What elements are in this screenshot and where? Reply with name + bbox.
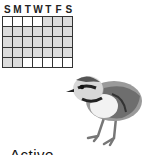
bird-chick-icon	[64, 68, 146, 148]
calendar-cell	[53, 48, 63, 58]
calendar-grid	[2, 16, 73, 68]
day-header: T	[43, 4, 53, 15]
calendar-cell	[43, 58, 53, 68]
calendar-cell	[13, 48, 23, 58]
calendar-cell	[33, 58, 43, 68]
calendar-cell	[13, 27, 23, 37]
calendar-cell	[23, 27, 33, 37]
calendar-day-headers: S M T W T F S	[2, 4, 74, 15]
calendar-cell	[33, 48, 43, 58]
calendar-cell	[23, 37, 33, 47]
day-header: S	[2, 4, 12, 15]
calendar-cell	[33, 17, 43, 27]
calendar-cell	[53, 58, 63, 68]
calendar-cell	[3, 27, 13, 37]
calendar-cell	[43, 17, 53, 27]
calendar-cell	[63, 27, 73, 37]
calendar-cell	[53, 17, 63, 27]
day-header: T	[23, 4, 33, 15]
calendar-cell	[13, 58, 23, 68]
calendar-cell	[23, 48, 33, 58]
day-header: F	[53, 4, 63, 15]
calendar-cell	[33, 37, 43, 47]
calendar-cell	[13, 17, 23, 27]
calendar-cell	[43, 37, 53, 47]
calendar-cell	[63, 48, 73, 58]
calendar-cell	[3, 58, 13, 68]
calendar-cell	[43, 48, 53, 58]
day-header: W	[33, 4, 43, 15]
calendar-cell	[13, 37, 23, 47]
calendar-cell	[63, 17, 73, 27]
calendar-cell	[53, 37, 63, 47]
calendar-cell	[43, 27, 53, 37]
day-header: S	[64, 4, 74, 15]
calendar-cell	[23, 58, 33, 68]
calendar-cell	[23, 17, 33, 27]
calendar-cell	[3, 37, 13, 47]
calendar-cell	[63, 37, 73, 47]
day-header: M	[12, 4, 22, 15]
calendar-cell	[63, 58, 73, 68]
calendar-cell	[3, 17, 13, 27]
caption-text: Active	[10, 146, 54, 155]
calendar-cell	[33, 27, 43, 37]
calendar-cell	[3, 48, 13, 58]
calendar-cell	[53, 27, 63, 37]
